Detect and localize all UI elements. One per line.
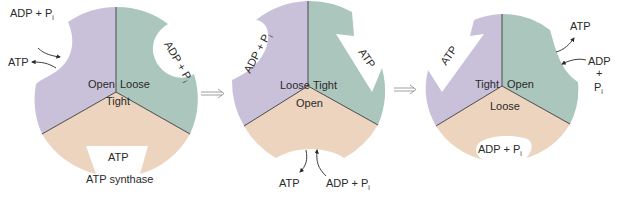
- stage-1: Open Loose Tight ADP + Pi ATP ADP + Pi A…: [8, 7, 198, 185]
- external-label-adp: ADP: [588, 55, 611, 67]
- transition-arrow-2-icon: [394, 85, 416, 94]
- arrow-in-icon: [38, 48, 60, 57]
- arrow-out-icon: [300, 150, 307, 172]
- segment-label-open: Open: [296, 97, 323, 109]
- arrow-in-icon: [317, 150, 326, 176]
- svg-text:ATP: ATP: [356, 46, 378, 70]
- caption-atp-synthase: ATP synthase: [86, 173, 153, 185]
- stage-2: Loose Tight Open ADP + Pi ATP ATP ADP + …: [232, 1, 385, 191]
- segment-label-loose: Loose: [280, 79, 310, 91]
- pocket-label-adp-pi: ADP + Pi: [478, 143, 522, 157]
- external-label-adp-pi-in: ADP + Pi: [326, 177, 370, 191]
- arrow-out-icon: [556, 38, 574, 52]
- arrow-out-icon: [32, 62, 56, 68]
- external-label-atp-out: ATP: [570, 20, 591, 32]
- pocket-label-atp: ATP: [356, 46, 378, 70]
- segment-label-tight: Tight: [106, 95, 130, 107]
- pocket-label-atp: ATP: [108, 151, 129, 163]
- segment-label-loose: Loose: [120, 78, 150, 90]
- segment-label-tight: Tight: [475, 78, 499, 90]
- svg-text:ATP: ATP: [438, 43, 460, 67]
- external-label-atp-out: ATP: [8, 56, 29, 68]
- segment-label-open: Open: [507, 78, 534, 90]
- arrow-in-icon: [562, 59, 586, 64]
- segment-label-open: Open: [88, 78, 115, 90]
- segment-label-loose: Loose: [490, 100, 520, 112]
- segment-label-tight: Tight: [313, 79, 337, 91]
- pocket-label-atp: ATP: [438, 43, 460, 67]
- stage-3: Tight Open Loose ATP ADP + Pi ATP ADP + …: [426, 14, 611, 160]
- external-label-adp-pi-in: ADP + Pi: [10, 7, 54, 21]
- external-label-pi: Pi: [594, 81, 603, 95]
- external-label-atp-out: ATP: [279, 177, 300, 189]
- transition-arrow-1-icon: [201, 89, 224, 98]
- atp-synthase-diagram: Open Loose Tight ADP + Pi ATP ADP + Pi A…: [0, 0, 622, 199]
- external-label-plus: +: [596, 67, 602, 79]
